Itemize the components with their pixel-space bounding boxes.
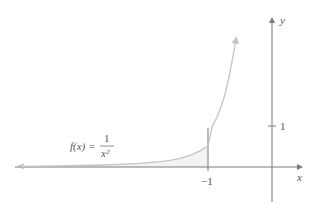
y-tick-label: 1: [280, 120, 286, 132]
x-axis-label: x: [296, 171, 302, 183]
y-axis-label: y: [279, 14, 285, 26]
shaded-region: [20, 146, 208, 167]
graph-canvas: y x −1 1 f(x) = 1 x²: [0, 0, 318, 212]
function-label-denominator: x²: [100, 147, 110, 159]
function-curve: [20, 40, 236, 166]
function-label-numerator: 1: [104, 132, 110, 144]
function-label-lhs: f(x) =: [70, 140, 95, 153]
x-tick-label: −1: [201, 175, 213, 187]
